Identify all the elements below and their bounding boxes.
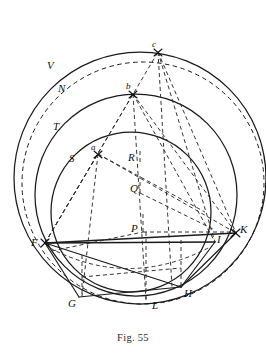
label-G: G (68, 298, 76, 309)
label-K: K (240, 224, 247, 235)
dashed-b-I (133, 94, 215, 242)
label-P: P (131, 223, 138, 234)
dashed-arc-F-I (50, 246, 212, 269)
chord-H-K (181, 233, 236, 287)
dashed-G-H-upper (82, 268, 181, 277)
dashed-a-K (98, 154, 236, 233)
label-V: V (47, 60, 54, 71)
label-N: N (58, 83, 65, 94)
figure-caption: Fig. 55 (0, 332, 266, 343)
dashed-a-G (82, 154, 98, 296)
label-H: H (184, 288, 192, 299)
chord-F-I (45, 242, 215, 243)
dashed-a-R (98, 154, 205, 212)
label-I: I (217, 234, 221, 245)
circle-middle-T (35, 94, 237, 296)
chord-F-G (45, 243, 79, 297)
label-F: F (31, 237, 38, 248)
geometry-drawing (0, 0, 266, 356)
dashed-b-K (133, 94, 236, 233)
label-S: S (69, 153, 75, 164)
label-R: R (128, 152, 135, 163)
label-Q: Q (130, 183, 138, 194)
figure-container: V N T S c b a R Q P F I K H G L Fig. 55 (0, 0, 266, 356)
label-c: c (152, 40, 156, 49)
label-T: T (53, 121, 59, 132)
label-a: a (91, 143, 96, 152)
label-b: b (126, 82, 131, 91)
dashed-c-I (158, 52, 215, 242)
label-L: L (152, 300, 158, 311)
dashed-c-L (158, 52, 172, 287)
dashed-b-L (133, 94, 146, 300)
